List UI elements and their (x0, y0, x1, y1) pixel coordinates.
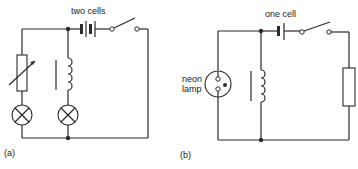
switch-icon (110, 18, 148, 31)
diagram-b-label: (b) (180, 150, 191, 160)
battery-label: one cell (265, 9, 296, 19)
circuit-b: one cell neon lamp (180, 9, 355, 160)
resistor-icon (343, 68, 355, 106)
circuit-a: two cells (4, 6, 148, 158)
neon-label-line2: lamp (182, 84, 202, 94)
inductor-icon (56, 58, 72, 90)
diagram-a-label: (a) (4, 148, 15, 158)
circuit-diagrams: two cells (0, 0, 358, 169)
variable-resistor-icon (9, 55, 35, 91)
neon-label-line1: neon (182, 74, 202, 84)
neon-lamp-icon (205, 71, 231, 97)
switch-icon (300, 22, 349, 34)
lamp-icon (58, 105, 78, 125)
battery-two-cells-icon (68, 21, 110, 37)
battery-label: two cells (71, 6, 106, 16)
inductor-icon (251, 70, 265, 102)
lamp-icon (12, 105, 32, 125)
battery-one-cell-icon (261, 23, 300, 40)
